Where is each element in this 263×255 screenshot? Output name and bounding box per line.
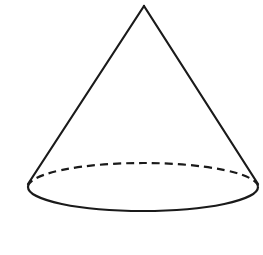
cone-left-slant-edge xyxy=(28,6,144,184)
cone-drawing xyxy=(0,0,263,255)
cone-right-slant-edge xyxy=(144,6,258,184)
cone-diagram xyxy=(0,0,263,255)
cone-base-visible-edge xyxy=(28,187,258,211)
cone-base-hidden-edge xyxy=(28,163,258,187)
